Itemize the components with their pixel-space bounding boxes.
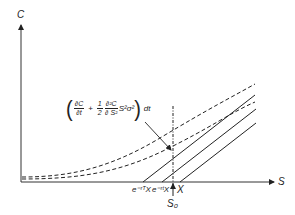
- plus-sign: +: [88, 104, 93, 113]
- solid-line-e-rt-X: [162, 109, 256, 182]
- dt-term: dt: [144, 104, 151, 113]
- marker-X: X: [177, 185, 184, 195]
- one-half: 1 2: [97, 100, 103, 116]
- numerator: ∂C: [74, 100, 85, 108]
- left-paren: (: [66, 97, 73, 119]
- s-squared-sigma-squared: S²σ²: [119, 104, 135, 113]
- denominator: ∂ S²: [105, 109, 117, 116]
- y-axis-label: C: [17, 10, 24, 20]
- time-decay-formula: ( ∂C ∂t + 1 2 ∂²C ∂ S² S²σ² ) dt: [66, 98, 150, 118]
- marker-S0: S₀: [167, 199, 178, 209]
- x-axis-label: S: [278, 177, 285, 187]
- numerator: 1: [97, 100, 103, 108]
- marker-e-rt-X: e⁻ʳᵗX: [152, 186, 169, 194]
- denominator: ∂t: [76, 109, 81, 116]
- marker-e-rT-X: e⁻ʳᵀX: [132, 186, 151, 194]
- formula-pointer-arrow: [145, 122, 171, 150]
- solid-line-X: [180, 123, 256, 182]
- second-partial: ∂²C ∂ S²: [105, 100, 118, 116]
- partial-c-partial-t: ∂C ∂t: [74, 100, 85, 116]
- right-paren: ): [134, 97, 141, 119]
- denominator: 2: [98, 109, 102, 116]
- numerator: ∂²C: [105, 100, 118, 108]
